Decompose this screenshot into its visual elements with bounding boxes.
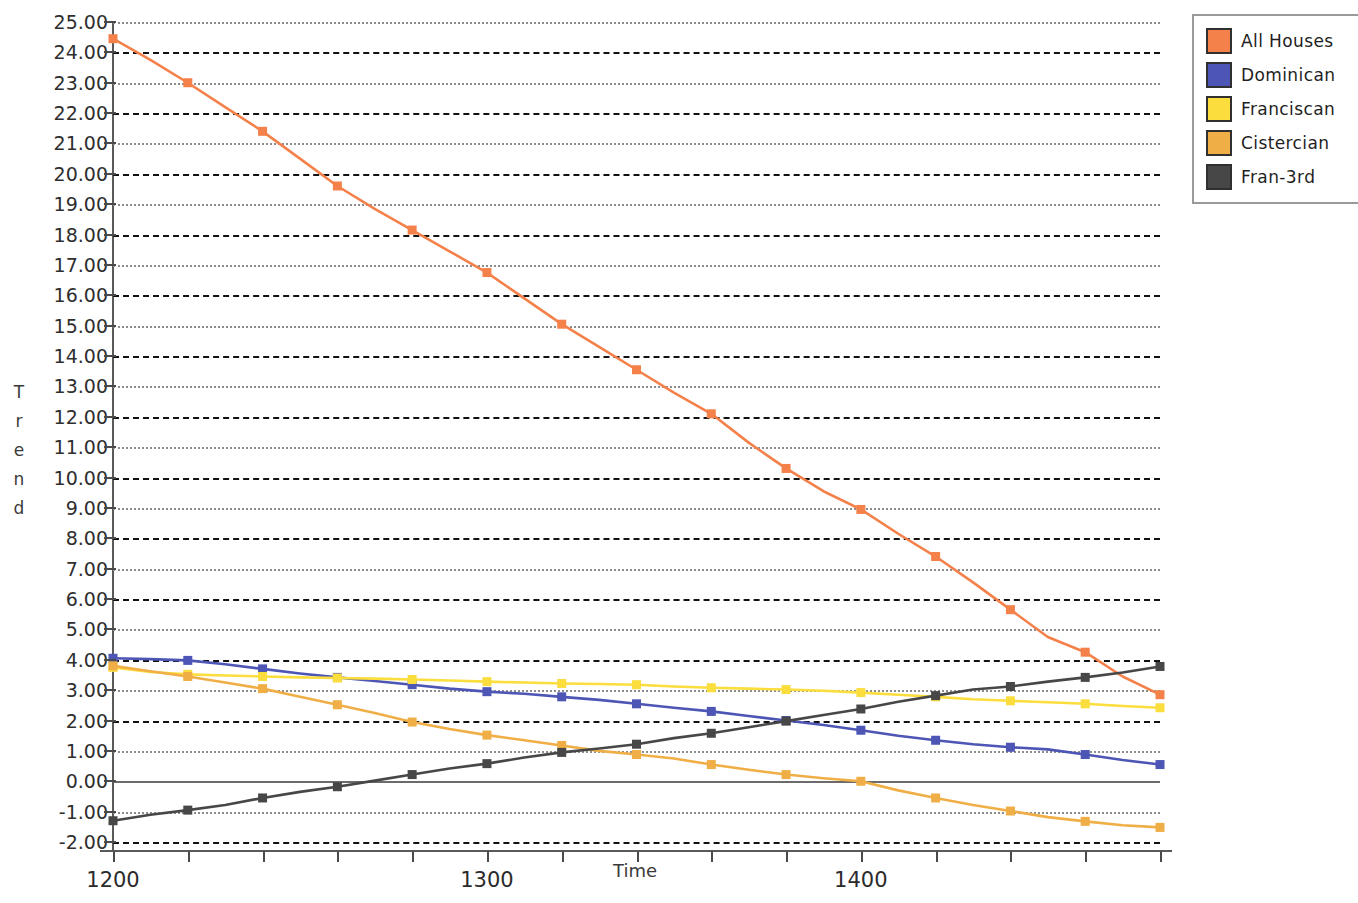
- x-axis-tick-mark: [562, 851, 564, 862]
- data-point-marker: [632, 750, 641, 759]
- data-point-marker: [782, 685, 791, 694]
- data-point-marker: [482, 268, 491, 277]
- y-axis-tick-mark: [104, 355, 116, 357]
- y-axis-tick-label: 11.00: [22, 436, 108, 458]
- legend-item-all-houses[interactable]: All Houses: [1206, 24, 1358, 58]
- x-axis-tick-mark: [1010, 851, 1012, 862]
- legend-swatch-icon: [1206, 28, 1232, 54]
- y-axis-tick-label: 14.00: [22, 345, 108, 367]
- y-axis-tick-label: 22.00: [22, 102, 108, 124]
- y-axis-tick-label: 20.00: [22, 163, 108, 185]
- y-axis-tick-label: 23.00: [22, 72, 108, 94]
- y-axis-tick-label: 10.00: [22, 467, 108, 489]
- data-point-marker: [632, 365, 641, 374]
- data-point-marker: [333, 182, 342, 191]
- y-axis-tick-mark: [104, 51, 116, 53]
- legend-label: All Houses: [1241, 31, 1334, 51]
- data-point-marker: [258, 127, 267, 136]
- y-axis-tick-mark: [104, 568, 116, 570]
- data-point-marker: [707, 760, 716, 769]
- data-point-marker: [1006, 682, 1015, 691]
- data-point-marker: [1156, 760, 1165, 769]
- x-axis-tick-mark: [263, 851, 265, 862]
- y-axis-tick-mark: [104, 203, 116, 205]
- data-point-marker: [408, 770, 417, 779]
- y-axis-tick-mark: [104, 841, 116, 843]
- y-axis-tick-label: 6.00: [22, 588, 108, 610]
- data-point-marker: [1006, 807, 1015, 816]
- data-point-marker: [482, 677, 491, 686]
- data-point-marker: [333, 674, 342, 683]
- data-point-marker: [482, 759, 491, 768]
- data-point-marker: [856, 726, 865, 735]
- trend-line-chart: T r e n d -2.00-1.000.001.002.003.004.00…: [0, 0, 1358, 903]
- data-point-marker: [1081, 699, 1090, 708]
- y-axis-tick-label: 17.00: [22, 254, 108, 276]
- legend-swatch-icon: [1206, 96, 1232, 122]
- y-axis-tick-mark: [104, 21, 116, 23]
- data-point-marker: [557, 692, 566, 701]
- data-point-marker: [931, 736, 940, 745]
- plot-area: [113, 22, 1160, 842]
- data-point-marker: [333, 700, 342, 709]
- data-point-marker: [856, 777, 865, 786]
- data-point-marker: [1156, 703, 1165, 712]
- data-point-marker: [782, 717, 791, 726]
- y-axis-tick-label: 16.00: [22, 284, 108, 306]
- y-axis-tick-mark: [104, 477, 116, 479]
- x-axis-tick-mark: [711, 851, 713, 862]
- gridline: [113, 842, 1160, 844]
- y-axis-tick-mark: [104, 507, 116, 509]
- data-point-marker: [632, 680, 641, 689]
- y-axis-tick-mark: [104, 598, 116, 600]
- data-point-marker: [1081, 648, 1090, 657]
- y-axis-tick-mark: [104, 173, 116, 175]
- y-axis-tick-label: 8.00: [22, 527, 108, 549]
- y-axis-tick-label: 18.00: [22, 224, 108, 246]
- y-axis-tick-mark: [104, 780, 116, 782]
- y-axis-tick-label: 19.00: [22, 193, 108, 215]
- data-point-marker: [856, 688, 865, 697]
- y-axis-tick-label: 9.00: [22, 497, 108, 519]
- y-axis-tick-mark: [104, 142, 116, 144]
- legend-swatch-icon: [1206, 62, 1232, 88]
- y-axis-tick-label: 7.00: [22, 558, 108, 580]
- y-axis-tick-mark: [104, 689, 116, 691]
- x-axis-tick-label: 1300: [460, 868, 513, 892]
- legend-swatch-icon: [1206, 164, 1232, 190]
- y-axis-tick-mark: [104, 385, 116, 387]
- data-point-marker: [333, 782, 342, 791]
- y-axis-tick-mark: [104, 750, 116, 752]
- data-point-marker: [183, 78, 192, 87]
- data-point-marker: [183, 656, 192, 665]
- legend-label: Dominican: [1241, 65, 1335, 85]
- legend-item-fran-3rd[interactable]: Fran-3rd: [1206, 160, 1358, 194]
- y-axis-tick-label: 24.00: [22, 41, 108, 63]
- data-point-marker: [557, 320, 566, 329]
- y-axis-tick-labels: -2.00-1.000.001.002.003.004.005.006.007.…: [0, 0, 108, 903]
- y-axis-tick-label: 2.00: [22, 710, 108, 732]
- legend-item-franciscan[interactable]: Franciscan: [1206, 92, 1358, 126]
- data-point-marker: [707, 729, 716, 738]
- data-point-marker: [557, 748, 566, 757]
- data-point-marker: [1006, 696, 1015, 705]
- series-all-houses: [109, 34, 1165, 699]
- x-axis-tick-mark: [188, 851, 190, 862]
- y-axis-tick-label: 21.00: [22, 132, 108, 154]
- x-axis-tick-mark: [936, 851, 938, 862]
- y-axis-tick-mark: [104, 628, 116, 630]
- legend-label: Cistercian: [1241, 133, 1329, 153]
- legend-item-cistercian[interactable]: Cistercian: [1206, 126, 1358, 160]
- x-axis-tick-mark: [412, 851, 414, 862]
- y-axis-tick-label: 0.00: [22, 770, 108, 792]
- y-axis-tick-label: -1.00: [22, 801, 108, 823]
- data-point-marker: [258, 793, 267, 802]
- data-point-marker: [557, 679, 566, 688]
- data-point-marker: [1156, 690, 1165, 699]
- data-point-marker: [856, 505, 865, 514]
- y-axis-tick-label: 25.00: [22, 11, 108, 33]
- legend-item-dominican[interactable]: Dominican: [1206, 58, 1358, 92]
- y-axis-tick-mark: [104, 112, 116, 114]
- y-axis-tick-mark: [104, 234, 116, 236]
- y-axis-tick-mark: [104, 294, 116, 296]
